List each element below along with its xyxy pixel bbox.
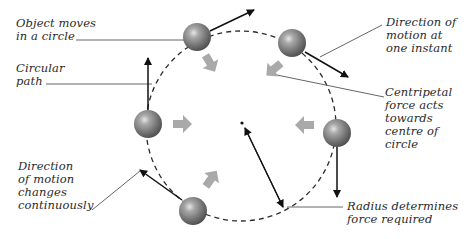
label-direction-instant: Direction of motion at one instant xyxy=(386,16,456,55)
velocity-arrow-bottom xyxy=(140,170,182,200)
force-arrow-bottom xyxy=(198,166,224,192)
object-sphere-right xyxy=(323,119,351,147)
force-arrow-top-left xyxy=(198,51,223,76)
object-sphere-left xyxy=(134,110,162,138)
label-direction-changes: Direction of motion changes continuously xyxy=(18,160,94,212)
object-sphere-top-right xyxy=(278,29,306,57)
label-radius: Radius determines force required xyxy=(347,200,458,226)
force-arrows xyxy=(173,51,314,192)
label-object-moves: Object moves in a circle xyxy=(16,17,96,43)
velocity-arrow-top-right xyxy=(305,52,348,77)
leader-direction-instant xyxy=(320,25,382,57)
radius-arrow-back xyxy=(245,128,283,207)
leader-centripetal xyxy=(272,74,384,97)
label-centripetal: Centripetal force acts towards centre of… xyxy=(385,86,452,151)
centre-dot xyxy=(240,121,243,124)
force-arrow-top-right xyxy=(261,56,287,82)
velocity-arrow-top-left xyxy=(210,10,254,31)
force-arrow-left xyxy=(173,115,192,133)
object-sphere-top-left xyxy=(183,23,211,51)
leader-direction-changes xyxy=(92,171,140,210)
object-sphere-bottom xyxy=(179,197,207,225)
force-arrow-right xyxy=(295,116,314,134)
label-circular-path: Circular path xyxy=(16,62,65,88)
